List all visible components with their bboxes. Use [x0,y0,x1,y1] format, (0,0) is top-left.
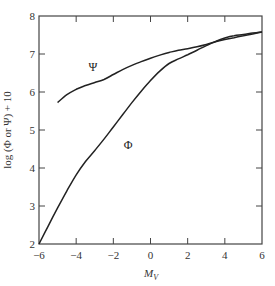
curve-label-psi: Ψ [88,60,97,74]
y-tick-label: 6 [30,86,36,98]
y-tick-label: 8 [30,10,36,22]
x-axis-title-subscript: V [153,273,159,282]
curves [39,32,262,244]
axis-ticks [39,16,262,244]
x-tick-label: 4 [222,249,228,261]
curve-phi [39,32,262,244]
curve-label-phi: Φ [124,138,133,152]
plot-border [39,16,262,244]
x-tick-label: 0 [148,249,154,261]
x-tick-labels: −6−4−20246 [33,249,265,261]
y-tick-label: 7 [30,48,36,60]
y-tick-label: 5 [30,124,36,136]
x-tick-label: 2 [185,249,191,261]
y-tick-label: 4 [30,162,36,174]
x-tick-label: −2 [107,249,119,261]
curve-labels: ΨΦ [88,60,132,152]
y-tick-labels: 2345678 [30,10,36,250]
plot-frame [39,16,262,244]
chart: −6−4−20246 2345678 ΨΦ MV log (Φ or Ψ) + … [0,0,275,286]
y-tick-label: 3 [30,200,36,212]
x-tick-label: −4 [70,249,82,261]
y-tick-label: 2 [30,238,36,250]
y-axis-title: log (Φ or Ψ) + 10 [1,91,14,169]
x-axis-title: MV [143,267,159,282]
x-tick-label: 6 [259,249,265,261]
x-tick-label: −6 [33,249,45,261]
